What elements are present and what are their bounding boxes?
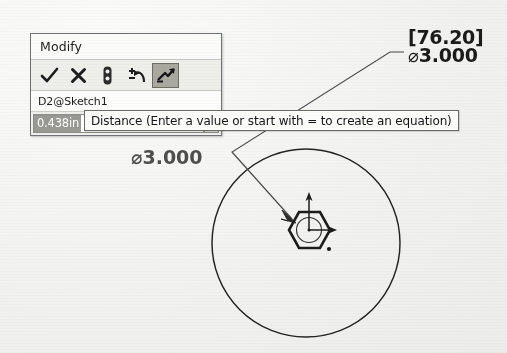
rebuild-undo-button[interactable] bbox=[123, 63, 150, 88]
thumbtack-icon bbox=[101, 65, 114, 86]
cancel-cross-icon bbox=[70, 67, 87, 84]
diameter-symbol-icon: ⌀ bbox=[408, 45, 419, 66]
sketch-circle[interactable] bbox=[212, 149, 400, 337]
rebuild-undo-icon bbox=[127, 66, 147, 85]
dialog-title: Modify bbox=[40, 39, 82, 54]
sketch-point-marker[interactable] bbox=[327, 247, 331, 251]
sensor-tool-icon bbox=[155, 66, 176, 85]
dialog-titlebar[interactable]: Modify bbox=[31, 34, 221, 60]
dimension-value-text: 0.438in bbox=[34, 115, 81, 132]
dimension-name-row: D2@Sketch1 bbox=[31, 91, 221, 112]
dimension-callout[interactable]: [76.20] ⌀3.000 bbox=[408, 28, 483, 66]
value-field-tooltip: Distance (Enter a value or start with = … bbox=[84, 110, 459, 131]
obscured-dimension-text: ⌀3.000 bbox=[131, 146, 203, 168]
dialog-toolbar[interactable] bbox=[31, 60, 221, 91]
accept-check-icon bbox=[40, 67, 59, 84]
dimension-name-label: D2@Sketch1 bbox=[38, 95, 108, 108]
accept-check-button[interactable] bbox=[36, 63, 63, 88]
callout-diameter-value: ⌀3.000 bbox=[408, 46, 483, 65]
callout-diameter-number: 3.000 bbox=[419, 44, 478, 66]
sensor-tool-button[interactable] bbox=[152, 63, 179, 88]
dimension-leader-line[interactable] bbox=[232, 52, 404, 219]
cancel-cross-button[interactable] bbox=[65, 63, 92, 88]
thumbtack-button[interactable] bbox=[94, 63, 121, 88]
tooltip-text: Distance (Enter a value or start with = … bbox=[91, 114, 452, 128]
